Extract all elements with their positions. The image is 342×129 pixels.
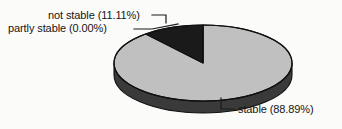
slice-label-stable: stable (88.89%) [238,103,314,116]
slice-label-partly-stable: partly stable (0.00%) [8,22,107,35]
slice-label-not-stable: not stable (11.11%) [48,9,140,22]
pie-top-surface [114,25,292,101]
leader-line-not-stable [152,15,166,23]
pie-chart-figure: not stable (11.11%) partly stable (0.00%… [0,0,342,129]
